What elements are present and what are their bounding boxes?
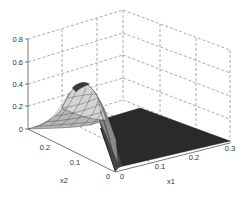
x2-tick-0: 0 (106, 172, 110, 181)
x1-tick-0.1: 0.1 (155, 162, 165, 171)
x1-tick-0: 0 (120, 172, 124, 181)
surface (28, 82, 230, 172)
x2-axis-label: x2 (60, 176, 68, 185)
z-tick-0.6: 0.6 (13, 58, 23, 67)
x1-tick-0.3: 0.3 (225, 144, 235, 153)
z-tick-0.2: 0.2 (13, 102, 23, 111)
surface-plot: 0.8 0.6 0.4 0.2 0 (0, 0, 247, 198)
z-tick-0.4: 0.4 (13, 80, 23, 89)
x1-tick-0.2: 0.2 (189, 153, 199, 162)
z-tick-0: 0 (19, 125, 23, 134)
z-axis: 0.8 0.6 0.4 0.2 0 (13, 35, 28, 134)
x1-axis-label: x1 (167, 177, 175, 186)
x2-tick-0.1: 0.1 (70, 158, 80, 167)
z-tick-0.8: 0.8 (13, 35, 23, 44)
x2-tick-0.2: 0.2 (40, 143, 50, 152)
